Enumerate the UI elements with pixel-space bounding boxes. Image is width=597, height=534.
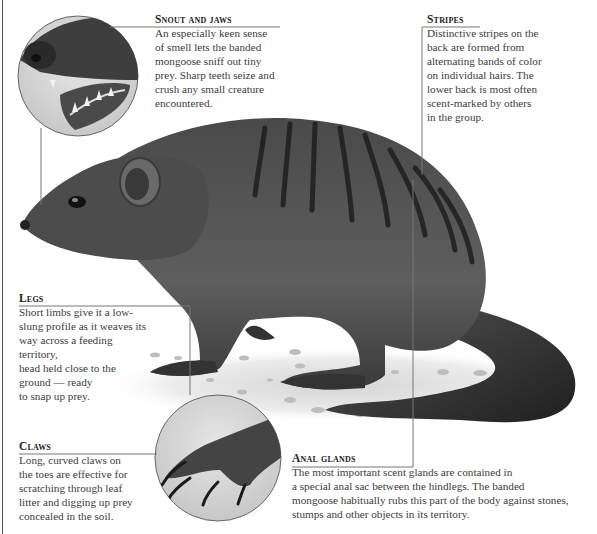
- text-line: An especially keen sense: [155, 26, 280, 40]
- callout-claws: Claws Long, curved claws on the toes are…: [19, 440, 154, 523]
- callout-heading: Legs: [19, 292, 154, 305]
- text-line: Long, curved claws on: [19, 453, 154, 467]
- callout-stripes: Stripes Distinctive stripes on the back …: [427, 13, 552, 124]
- callout-body: Long, curved claws on the toes are effec…: [19, 453, 154, 523]
- text-line: ground — ready: [19, 375, 154, 389]
- text-line: mongoose sniff out tiny: [155, 54, 280, 68]
- text-line: head held close to the: [19, 361, 154, 375]
- text-line: alternating bands of color: [427, 54, 552, 68]
- callout-heading: Claws: [19, 440, 154, 453]
- text-line: Distinctive stripes on the: [427, 26, 552, 40]
- text-line: to snap up prey.: [19, 389, 154, 403]
- text-line: Short limbs give it a low-: [19, 305, 154, 319]
- callout-body: The most important scent glands are cont…: [292, 465, 592, 521]
- callout-heading: Stripes: [427, 13, 552, 26]
- text-line: The most important scent glands are cont…: [292, 465, 592, 479]
- text-line: prey. Sharp teeth seize and: [155, 68, 280, 82]
- callout-body: Short limbs give it a low- slung profile…: [19, 305, 154, 403]
- text-line: on individual hairs. The: [427, 68, 552, 82]
- callout-snout-and-jaws: Snout and jaws An especially keen sense …: [155, 13, 280, 110]
- text-line: slung profile as it weaves its: [19, 319, 154, 333]
- text-line: in the group.: [427, 110, 552, 124]
- callout-heading: Snout and jaws: [155, 13, 280, 26]
- callout-heading: Anal glands: [292, 452, 592, 465]
- callout-body: Distinctive stripes on the back are form…: [427, 26, 552, 124]
- callout-body: An especially keen sense of smell lets t…: [155, 26, 280, 110]
- text-line: concealed in the soil.: [19, 509, 154, 523]
- text-line: scent-marked by others: [427, 96, 552, 110]
- text-line: encountered.: [155, 96, 280, 110]
- callout-anal-glands: Anal glands The most important scent gla…: [292, 452, 592, 521]
- text-line: scratching through leaf: [19, 481, 154, 495]
- text-line: way across a feeding territory,: [19, 333, 154, 361]
- snout-detail-circle: [18, 16, 150, 136]
- text-line: stumps and other objects in its territor…: [292, 507, 592, 521]
- text-line: the toes are effective for: [19, 467, 154, 481]
- mongoose-head: [20, 155, 209, 260]
- text-line: crush any small creature: [155, 82, 280, 96]
- text-line: litter and digging up prey: [19, 495, 154, 509]
- text-line: of smell lets the banded: [155, 40, 280, 54]
- callout-legs: Legs Short limbs give it a low- slung pr…: [19, 292, 154, 403]
- text-line: back are formed from: [427, 40, 552, 54]
- text-line: mongoose habitually rubs this part of th…: [292, 493, 592, 507]
- text-line: lower back is most often: [427, 82, 552, 96]
- text-line: a special anal sac between the hindlegs.…: [292, 479, 592, 493]
